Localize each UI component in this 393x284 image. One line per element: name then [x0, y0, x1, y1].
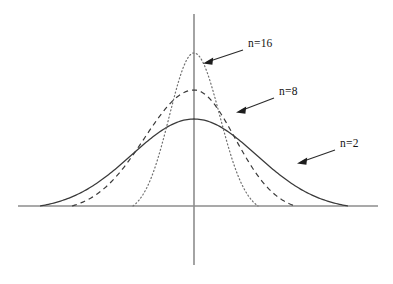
curve-n16 [133, 53, 258, 206]
label-n8: n=8 [279, 85, 298, 97]
arrowhead-n8 [236, 107, 246, 114]
label-n16: n=16 [248, 37, 273, 49]
arrowhead-n16 [203, 58, 213, 65]
axes-group [18, 14, 378, 265]
annotation-n2: n=2 [297, 137, 359, 165]
distribution-figure: n=16 n=8 n=2 [0, 0, 393, 284]
label-n2: n=2 [340, 137, 359, 149]
arrowhead-n2 [297, 158, 307, 165]
annotation-n8: n=8 [236, 85, 298, 114]
curve-n8 [72, 90, 295, 206]
plot-canvas: n=16 n=8 n=2 [0, 0, 393, 284]
annotation-n16: n=16 [203, 37, 273, 65]
